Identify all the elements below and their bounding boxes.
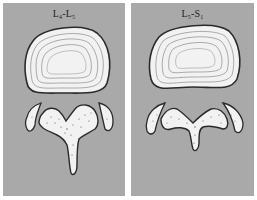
l4-l5-illustration [3,3,125,196]
vertebral-arch [161,108,228,150]
vertebral-arch [39,105,98,175]
right-facet [99,103,113,131]
panel-l5-s1: L5-S1 [131,3,254,196]
l5-s1-illustration [131,3,254,196]
intervertebral-disc [149,25,239,88]
intervertebral-disc [25,27,110,93]
panel-l4-l5: L4-L5 [3,3,125,196]
left-facet [26,103,42,131]
